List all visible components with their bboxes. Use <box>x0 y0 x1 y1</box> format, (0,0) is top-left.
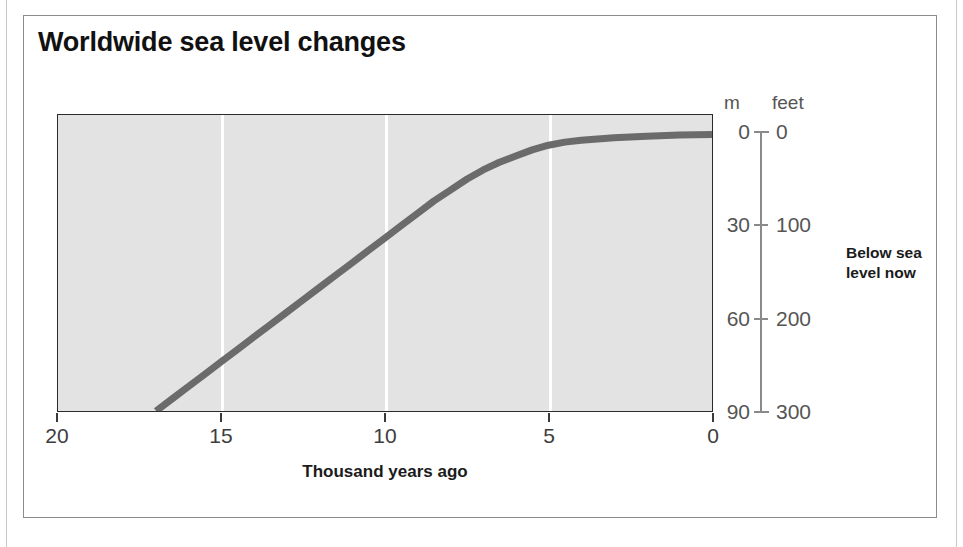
x-tick-10 <box>384 413 386 422</box>
y-label-feet-300: 300 <box>776 400 811 424</box>
scale-cap-top <box>761 131 769 133</box>
side-note-line-1: Below sea <box>846 244 922 261</box>
y-tick-60m <box>754 318 768 320</box>
y-label-meters-0: 0 <box>700 120 750 144</box>
x-tick-label-0: 0 <box>707 424 719 448</box>
x-tick-label-20: 20 <box>45 424 68 448</box>
below-sea-level-note: Below sea level now <box>846 243 922 283</box>
unit-header-meters: m <box>724 92 740 114</box>
x-tick-label-15: 15 <box>209 424 232 448</box>
x-axis-title: Thousand years ago <box>302 462 467 482</box>
x-tick-15 <box>220 413 222 422</box>
y-label-feet-200: 200 <box>776 307 811 331</box>
sea-level-figure: Worldwide sea level changes 20151050 Tho… <box>0 0 963 547</box>
y-label-meters-30: 30 <box>700 213 750 237</box>
scale-cap-bottom <box>761 411 769 413</box>
plot-inner <box>58 115 712 411</box>
x-tick-20 <box>56 413 58 422</box>
side-note-line-2: level now <box>846 264 916 281</box>
sea-level-curve <box>58 115 712 411</box>
y-label-meters-90: 90 <box>700 400 750 424</box>
y-label-feet-0: 0 <box>776 120 788 144</box>
y-label-meters-60: 60 <box>700 307 750 331</box>
x-tick-label-5: 5 <box>543 424 555 448</box>
x-tick-5 <box>548 413 550 422</box>
page-rule-right <box>956 0 957 547</box>
y-tick-30m <box>754 224 768 226</box>
page-rule-left <box>6 0 7 547</box>
page-title: Worldwide sea level changes <box>38 27 406 58</box>
y-label-feet-100: 100 <box>776 213 811 237</box>
x-tick-label-10: 10 <box>373 424 396 448</box>
unit-header-feet: feet <box>772 92 804 114</box>
dual-scale-line <box>760 132 762 412</box>
plot-area <box>57 114 713 412</box>
